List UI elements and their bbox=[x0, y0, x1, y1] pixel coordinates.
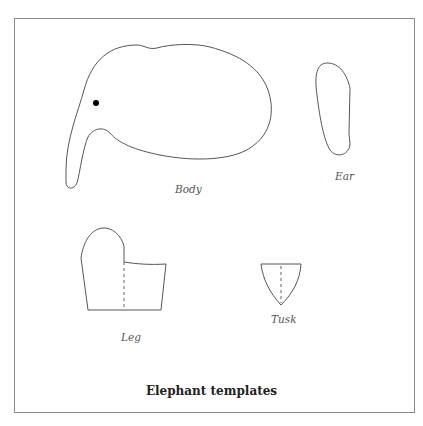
ear-outline bbox=[316, 63, 350, 155]
eye-dot bbox=[93, 100, 99, 106]
label-ear: Ear bbox=[335, 170, 354, 182]
label-body: Body bbox=[175, 183, 202, 195]
templates-drawing bbox=[0, 0, 423, 426]
label-leg: Leg bbox=[121, 331, 141, 343]
figure-caption: Elephant templates bbox=[0, 384, 423, 398]
label-tusk: Tusk bbox=[271, 313, 297, 325]
body-outline bbox=[66, 44, 271, 188]
